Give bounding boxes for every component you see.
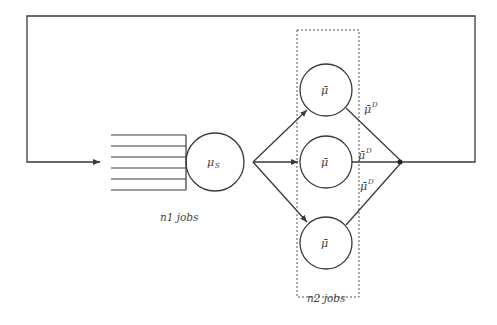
svg-text:D: D (367, 178, 374, 186)
svg-text:μ̄: μ̄ (360, 180, 367, 193)
svg-text:D: D (371, 101, 378, 109)
svg-text:D: D (365, 147, 372, 155)
parallel-server-3-label: μ̄ (321, 237, 328, 250)
svg-text:μ̄: μ̄ (364, 103, 371, 116)
feedback-loop (27, 16, 475, 162)
server-s-label: μ (207, 156, 214, 169)
parallel-server-1: μ̄ (300, 64, 352, 116)
join-point (398, 160, 403, 165)
join-arrows (346, 108, 400, 225)
queue-buffer (111, 135, 186, 190)
parallel-server-3: μ̄ (300, 217, 352, 269)
parallel-server-2-label: μ̄ (321, 156, 328, 169)
server-s-subscript: S (215, 162, 220, 170)
departure-rate-1: μ̄ D (364, 101, 378, 116)
server-s: μ S (186, 133, 244, 191)
queueing-network-diagram: μ S μ̄ μ̄ μ̄ μ̄ D μ̄ D μ̄ D n1 j (0, 0, 497, 325)
fork-arrows (253, 110, 307, 222)
parallel-server-1-label: μ̄ (321, 84, 328, 97)
departure-rate-3: μ̄ D (360, 178, 374, 193)
queue-label: n1 jobs (160, 211, 199, 223)
parallel-station-label: n2 jobs (307, 292, 346, 304)
svg-text:μ̄: μ̄ (358, 149, 365, 162)
departure-rate-2: μ̄ D (358, 147, 372, 162)
parallel-server-2: μ̄ (300, 136, 352, 188)
